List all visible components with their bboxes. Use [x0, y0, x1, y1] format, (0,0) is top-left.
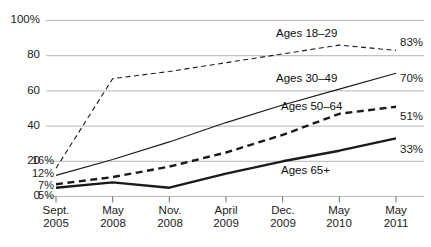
series-label-ages-18-29: Ages 18–29: [276, 27, 337, 39]
xtick-label-4: Dec. 2009: [253, 204, 313, 230]
start-label-ages-65-plus: 5%: [12, 190, 54, 201]
series-line-3: [56, 138, 396, 187]
x-axis: [56, 197, 396, 203]
xtick-label-5: May 2010: [309, 204, 369, 230]
series-label-ages-50-64: Ages 50–64: [281, 100, 342, 112]
xtick-label-3-line1: April: [214, 204, 237, 216]
start-label-ages-18-29: 16%: [12, 155, 54, 166]
xtick-label-2-line2: 2008: [140, 217, 200, 230]
xtick-label-3-line2: 2009: [196, 217, 256, 230]
xtick-label-1-line1: May: [102, 204, 124, 216]
ytick-label-40: 40: [0, 120, 40, 131]
end-label-ages-30-49: 70%: [400, 72, 423, 84]
xtick-label-4-line1: Dec.: [271, 204, 295, 216]
xtick-label-2: Nov. 2008: [140, 204, 200, 230]
xtick-label-0-line1: Sept.: [43, 204, 70, 216]
xtick-label-6-line1: May: [385, 204, 407, 216]
ytick-label-100: 100%: [0, 14, 40, 25]
xtick-label-4-line2: 2009: [253, 217, 313, 230]
xtick-label-0-line2: 2005: [26, 217, 86, 230]
xtick-label-3: April 2009: [196, 204, 256, 230]
xtick-label-1-line2: 2008: [83, 217, 143, 230]
xtick-label-6: May 2011: [366, 204, 426, 230]
xtick-label-2-line1: Nov.: [159, 204, 182, 216]
end-label-ages-18-29: 83%: [400, 36, 423, 48]
xtick-label-5-line1: May: [328, 204, 350, 216]
gridlines: [46, 21, 424, 197]
series-lines: [56, 45, 396, 188]
xtick-label-5-line2: 2010: [309, 217, 369, 230]
end-label-ages-65-plus: 33%: [400, 143, 423, 155]
ytick-label-80: 80: [0, 49, 40, 60]
series-label-ages-30-49: Ages 30–49: [276, 72, 337, 84]
xtick-label-0: Sept. 2005: [26, 204, 86, 230]
ytick-label-60: 60: [0, 85, 40, 96]
line-chart: 100% 80 60 40 20 0 16% 12% 7% 5% 83% 70%…: [0, 0, 431, 247]
xtick-label-6-line2: 2011: [366, 217, 426, 230]
start-label-ages-30-49: 12%: [12, 168, 54, 179]
xtick-label-1: May 2008: [83, 204, 143, 230]
series-label-ages-65-plus: Ages 65+: [281, 164, 330, 176]
end-label-ages-50-64: 51%: [400, 110, 423, 122]
